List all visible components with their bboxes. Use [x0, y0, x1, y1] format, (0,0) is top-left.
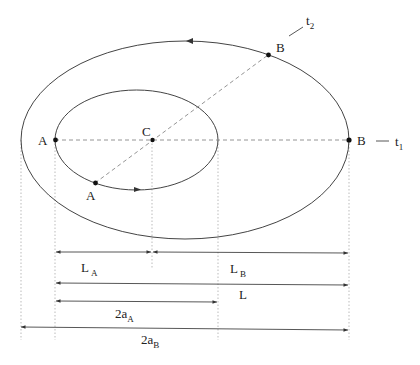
dim-2aB-arrow: [21, 327, 348, 330]
label-2aA: 2aA: [115, 306, 134, 324]
label-LA: LA: [81, 260, 98, 278]
outer-orbit-direction-arrow-icon: [186, 38, 193, 44]
point-A-lower: [93, 181, 98, 186]
label-C: C: [142, 124, 151, 139]
label-2aB: 2aB: [141, 332, 159, 350]
point-B-right: [346, 137, 351, 142]
point-C: [150, 138, 154, 142]
line-t2: [95, 55, 268, 183]
label-B-right: B: [357, 133, 366, 148]
label-LB: LB: [230, 261, 246, 279]
dim-LB-arrow: [153, 252, 348, 253]
vertical-guides: [21, 140, 349, 340]
label-B-upper: B: [276, 40, 285, 55]
label-L: L: [239, 287, 247, 302]
point-B-upper: [266, 53, 271, 58]
label-A-left: A: [38, 133, 48, 148]
dim-2aA-arrow: [56, 301, 217, 302]
point-A-left: [53, 138, 58, 143]
t2-leader: [289, 27, 303, 36]
orbit-diagram: A C A B B t2 t1 LA LB L 2aA 2aB: [0, 0, 420, 365]
label-A-lower: A: [86, 188, 96, 203]
label-t2: t2: [306, 13, 314, 31]
inner-orbit-direction-arrow-icon: [134, 187, 141, 192]
dim-L-arrow: [56, 283, 348, 285]
label-t1: t1: [395, 134, 403, 152]
